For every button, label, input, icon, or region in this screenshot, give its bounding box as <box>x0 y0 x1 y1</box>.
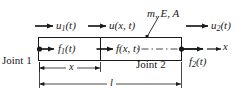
dimension-x-label: x <box>66 62 77 73</box>
bar-element-diagram: m, E, A u1(t) u(x, t) u2(t) f1(t) f(x, t… <box>0 0 243 100</box>
u2-label: u2(t) <box>211 20 231 33</box>
x-axis-label: x <box>223 42 228 53</box>
material-leader-line <box>146 16 160 38</box>
u1-label: u1(t) <box>56 20 76 33</box>
joint2-label: Joint 2 <box>136 59 166 70</box>
material-properties-label: m, E, A <box>147 8 179 19</box>
dimension-l-label: l <box>107 78 116 89</box>
fx-label: f(x, t) <box>116 43 140 54</box>
joint1-label: Joint 1 <box>2 55 32 66</box>
f2-label: f2(t) <box>189 56 206 69</box>
ux-label: u(x, t) <box>109 20 135 31</box>
f1-label: f1(t) <box>58 43 75 56</box>
